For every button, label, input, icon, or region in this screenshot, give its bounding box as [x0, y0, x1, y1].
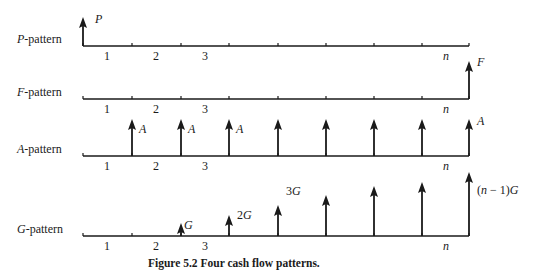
f-pattern-group: 123nF [83, 55, 485, 116]
cash-flow-amount-label: F [476, 55, 485, 69]
cash-flow-diagram: 123nP123nF123nAAAA123nG2G3G(n − 1)G [0, 0, 533, 275]
cash-flow-amount-label: 3G [286, 184, 301, 198]
cash-flow-arrow-icon [274, 119, 282, 156]
period-label: 2 [153, 49, 159, 63]
cash-flow-amount-label: (n − 1)G [477, 183, 519, 197]
g-pattern-group: 123nG2G3G(n − 1)G [83, 172, 519, 253]
cash-flow-amount-label: P [94, 12, 103, 26]
cash-flow-amount-label: A [476, 114, 485, 128]
cash-flow-arrow-icon [370, 119, 378, 156]
cash-flow-arrow-icon: 2G [225, 208, 252, 236]
cash-flow-arrow-icon [418, 182, 426, 236]
cash-flow-arrow-icon [370, 186, 378, 236]
cash-flow-arrow-icon [322, 119, 330, 156]
cash-flow-arrow-icon: (n − 1)G [465, 172, 519, 236]
period-label: 2 [153, 102, 159, 116]
cash-flow-arrow-icon: G [177, 218, 193, 236]
cash-flow-amount-label: 2G [237, 208, 252, 222]
period-label: 2 [153, 239, 159, 253]
cash-flow-amount-label: G [184, 218, 193, 232]
cash-flow-arrow-icon: A [128, 119, 147, 156]
cash-flow-arrow-icon: A [465, 114, 485, 156]
cash-flow-arrow-icon: P [79, 12, 103, 46]
period-label: n [443, 159, 449, 173]
period-label: 3 [202, 159, 208, 173]
period-label: 1 [104, 239, 110, 253]
period-label: n [443, 49, 449, 63]
period-label: 1 [104, 49, 110, 63]
period-label: 1 [104, 102, 110, 116]
period-label: 3 [202, 49, 208, 63]
cash-flow-arrow-icon: A [225, 119, 244, 156]
p-pattern-group: 123nP [79, 12, 469, 63]
cash-flow-amount-label: A [138, 122, 147, 136]
cash-flow-amount-label: A [187, 122, 196, 136]
cash-flow-arrow-icon: F [465, 55, 485, 99]
cash-flow-arrow-icon [322, 195, 330, 236]
cash-flow-arrow-icon [418, 119, 426, 156]
period-label: 1 [104, 159, 110, 173]
period-label: 3 [202, 239, 208, 253]
period-label: 3 [202, 102, 208, 116]
cash-flow-arrow-icon: A [177, 119, 196, 156]
a-pattern-group: 123nAAAA [83, 114, 485, 173]
period-label: 2 [153, 159, 159, 173]
cash-flow-arrow-icon: 3G [274, 184, 301, 236]
figure-caption: Figure 5.2 Four cash flow patterns. [148, 257, 320, 269]
cash-flow-amount-label: A [235, 122, 244, 136]
period-label: n [443, 102, 449, 116]
period-label: n [443, 239, 449, 253]
